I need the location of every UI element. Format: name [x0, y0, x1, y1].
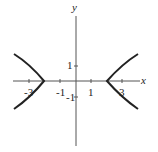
- hyperbola-plot: [0, 0, 158, 152]
- tick-label-neg1: -1: [56, 87, 65, 98]
- tick-label-neg3: -3: [24, 87, 33, 98]
- x-axis-label: x: [141, 75, 146, 86]
- ytick-label-neg1: -1: [66, 92, 75, 103]
- ytick-label-1: 1: [67, 60, 73, 71]
- tick-label-3: 3: [119, 87, 125, 98]
- tick-label-1: 1: [88, 87, 94, 98]
- y-axis-label: y: [72, 2, 77, 13]
